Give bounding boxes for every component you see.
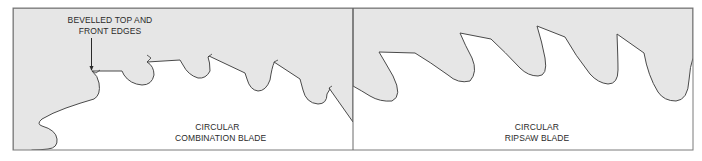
combination-blade-label: CIRCULAR COMBINATION BLADE [175,122,260,144]
combination-label-line-2: COMBINATION BLADE [175,133,260,144]
ripsaw-label-line-1: CIRCULAR [497,122,577,133]
bevelled-edges-callout: BEVELLED TOP AND FRONT EDGES [60,15,160,37]
callout-line-1: BEVELLED TOP AND [60,15,160,26]
saw-blade-diagram: BEVELLED TOP AND FRONT EDGES CIRCULAR CO… [0,0,702,161]
callout-line-2: FRONT EDGES [60,26,160,37]
ripsaw-label-line-2: RIPSAW BLADE [497,133,577,144]
combination-label-line-1: CIRCULAR [175,122,260,133]
ripsaw-blade-shape [353,8,693,101]
ripsaw-blade-label: CIRCULAR RIPSAW BLADE [497,122,577,144]
